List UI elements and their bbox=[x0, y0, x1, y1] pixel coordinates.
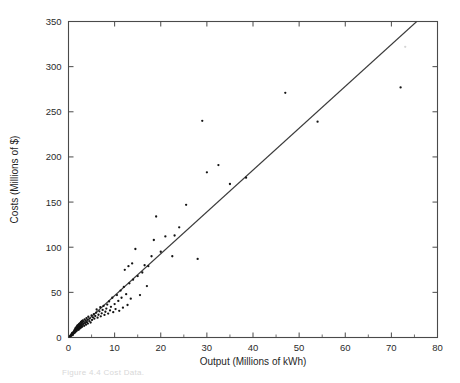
data-point bbox=[123, 286, 125, 288]
y-tick-label: 50 bbox=[51, 287, 62, 298]
x-tick-label: 80 bbox=[432, 342, 443, 353]
data-point bbox=[147, 265, 149, 267]
data-point bbox=[160, 251, 162, 253]
data-point bbox=[137, 275, 139, 277]
y-tick-label: 350 bbox=[46, 16, 62, 27]
data-point bbox=[117, 300, 119, 302]
data-point bbox=[107, 312, 109, 314]
x-tick-label: 70 bbox=[386, 342, 397, 353]
data-point bbox=[229, 183, 231, 185]
data-point bbox=[171, 255, 173, 257]
data-point bbox=[101, 309, 103, 311]
data-point bbox=[206, 171, 208, 173]
y-axis-title: Costs (Millions of $) bbox=[9, 136, 20, 224]
x-tick-label: 30 bbox=[202, 342, 213, 353]
data-point bbox=[99, 306, 101, 308]
data-point bbox=[104, 311, 106, 313]
data-point bbox=[93, 313, 95, 315]
data-point bbox=[185, 204, 187, 206]
data-point bbox=[127, 265, 129, 267]
data-point bbox=[134, 248, 136, 250]
data-point bbox=[103, 314, 105, 316]
x-tick-label: 20 bbox=[155, 342, 166, 353]
data-point bbox=[146, 285, 148, 287]
data-point bbox=[118, 310, 120, 312]
data-point bbox=[105, 307, 107, 309]
data-point bbox=[399, 86, 401, 88]
data-point bbox=[112, 311, 114, 313]
x-axis-title: Output (Millions of kWh) bbox=[200, 356, 307, 367]
data-point bbox=[316, 121, 318, 123]
data-point bbox=[102, 305, 104, 307]
data-point bbox=[97, 314, 99, 316]
data-point bbox=[404, 46, 406, 48]
figure-cost-data: 01020304050607080 050100150200250300350 … bbox=[0, 0, 460, 383]
data-point bbox=[100, 315, 102, 317]
data-point bbox=[93, 318, 95, 320]
x-tick-label: 0 bbox=[66, 342, 71, 353]
data-point bbox=[131, 262, 133, 264]
data-point bbox=[116, 294, 118, 296]
data-point bbox=[132, 279, 134, 281]
data-point bbox=[125, 293, 127, 295]
data-point bbox=[95, 308, 97, 310]
data-point bbox=[114, 308, 116, 310]
data-point bbox=[217, 164, 219, 166]
plot-frame bbox=[69, 22, 438, 338]
data-point bbox=[87, 322, 89, 324]
data-point bbox=[130, 298, 132, 300]
data-point bbox=[94, 315, 96, 317]
data-point bbox=[96, 316, 98, 318]
data-point bbox=[120, 297, 122, 299]
data-point bbox=[139, 294, 141, 296]
data-point bbox=[124, 269, 126, 271]
y-axis-tick-labels: 050100150200250300350 bbox=[46, 16, 62, 343]
x-tick-label: 40 bbox=[248, 342, 259, 353]
data-point bbox=[89, 317, 91, 319]
data-point bbox=[86, 318, 88, 320]
data-point bbox=[113, 303, 115, 305]
scatter-chart: 01020304050607080 050100150200250300350 … bbox=[0, 0, 460, 383]
x-tick-label: 50 bbox=[294, 342, 305, 353]
x-tick-label: 10 bbox=[109, 342, 120, 353]
data-point bbox=[109, 309, 111, 311]
data-point bbox=[178, 226, 180, 228]
data-point bbox=[128, 282, 130, 284]
y-tick-label: 150 bbox=[46, 197, 62, 208]
data-point bbox=[95, 312, 97, 314]
data-point bbox=[106, 303, 108, 305]
data-point bbox=[111, 297, 113, 299]
x-axis-tick-labels: 01020304050607080 bbox=[66, 342, 443, 353]
x-tick-label: 60 bbox=[340, 342, 351, 353]
y-tick-label: 100 bbox=[46, 242, 62, 253]
x-axis-ticks bbox=[69, 22, 438, 338]
y-tick-label: 0 bbox=[56, 332, 61, 343]
data-point bbox=[90, 314, 92, 316]
data-point bbox=[155, 215, 157, 217]
data-point bbox=[143, 264, 145, 266]
data-point bbox=[119, 289, 121, 291]
data-point bbox=[101, 312, 103, 314]
data-point bbox=[164, 235, 166, 237]
y-tick-label: 200 bbox=[46, 151, 62, 162]
y-tick-label: 250 bbox=[46, 106, 62, 117]
data-point bbox=[197, 258, 199, 260]
data-point bbox=[87, 316, 89, 318]
figure-caption: Figure 4.4 Cost Data. bbox=[62, 368, 144, 377]
data-point bbox=[245, 177, 247, 179]
data-point bbox=[153, 239, 155, 241]
y-tick-label: 300 bbox=[46, 61, 62, 72]
y-axis-ticks bbox=[69, 22, 438, 338]
data-point bbox=[284, 92, 286, 94]
data-point bbox=[141, 271, 143, 273]
data-point bbox=[89, 321, 91, 323]
data-points bbox=[69, 46, 407, 338]
data-point bbox=[98, 310, 100, 312]
data-point bbox=[173, 234, 175, 236]
data-point bbox=[201, 120, 203, 122]
data-point bbox=[126, 304, 128, 306]
data-point bbox=[110, 306, 112, 308]
data-point bbox=[91, 319, 93, 321]
data-point bbox=[150, 255, 152, 257]
data-point bbox=[122, 307, 124, 309]
